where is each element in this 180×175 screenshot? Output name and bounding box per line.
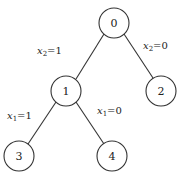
node-2: 2 <box>146 76 176 106</box>
edge-0-1 <box>76 34 104 79</box>
edge-label-0-1: x2=1 <box>37 45 62 58</box>
node-1-label: 1 <box>63 85 70 98</box>
node-0: 0 <box>99 8 129 38</box>
node-4: 4 <box>97 141 127 171</box>
edge-1-3 <box>28 102 56 144</box>
decision-tree-diagram: x2=1 x2=0 x1=1 x1=0 0 1 2 3 4 <box>0 0 180 175</box>
node-3-label: 3 <box>16 150 23 163</box>
node-1: 1 <box>51 76 81 106</box>
edge-label-1-4: x1=0 <box>97 105 122 118</box>
node-0-label: 0 <box>111 17 118 30</box>
node-3: 3 <box>4 141 34 171</box>
node-4-label: 4 <box>109 150 116 163</box>
node-2-label: 2 <box>158 85 165 98</box>
edge-label-1-3: x1=1 <box>7 110 32 123</box>
edge-label-0-2: x2=0 <box>143 40 168 53</box>
edge-0-2 <box>124 34 153 78</box>
